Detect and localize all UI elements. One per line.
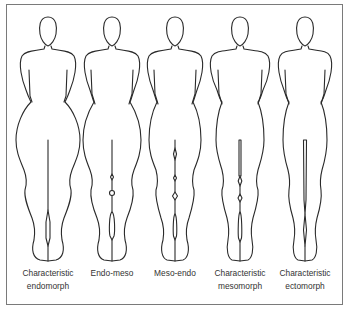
silhouette-meso-endo [147,17,202,261]
label-ectomorph-line2: ectomorph [274,279,336,292]
label-endomorph-line1: Characteristic [17,266,79,279]
label-mesomorph-line2: mesomorph [209,279,271,292]
label-endo-meso: Endo-meso [81,266,143,279]
label-ectomorph-line1: Characteristic [274,266,336,279]
silhouette-mesomorph [210,17,269,261]
label-mesomorph: Characteristic mesomorph [209,266,271,292]
label-endomorph: Characteristic endomorph [17,266,79,292]
label-meso-endo: Meso-endo [144,266,206,279]
silhouette-endo-meso [83,17,141,261]
label-mesomorph-line1: Characteristic [209,266,271,279]
silhouette-endomorph [16,17,80,261]
label-ectomorph: Characteristic ectomorph [274,266,336,292]
label-endo-meso-line1: Endo-meso [81,266,143,279]
label-endomorph-line2: endomorph [17,279,79,292]
silhouette-ectomorph [278,17,331,261]
label-meso-endo-line1: Meso-endo [144,266,206,279]
